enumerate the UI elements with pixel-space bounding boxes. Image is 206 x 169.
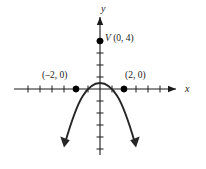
left-branch-arrowhead [60, 137, 70, 148]
x-axis-label: x [185, 84, 189, 94]
right-branch-arrowhead [130, 137, 140, 148]
vertex-coordinates: (0, 4) [113, 33, 134, 43]
right-intercept-point [121, 86, 128, 93]
vertex-point [97, 38, 104, 45]
right-intercept-label: (2, 0) [125, 71, 146, 81]
left-intercept-label: (–2, 0) [42, 71, 67, 81]
x-axis-arrowhead [168, 86, 176, 92]
y-axis-arrowhead [97, 17, 103, 25]
vertex-label: V (0, 4) [105, 34, 134, 44]
left-intercept-point [73, 86, 80, 93]
graph-canvas [0, 0, 206, 169]
y-axis-label: y [101, 4, 105, 14]
parabola-figure: y x V (0, 4) (–2, 0) (2, 0) [0, 0, 206, 169]
